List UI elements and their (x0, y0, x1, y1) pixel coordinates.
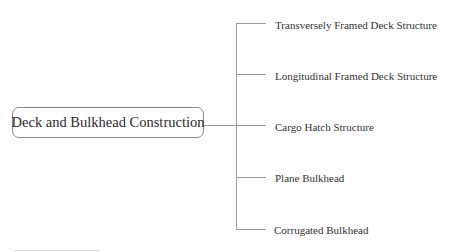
decorative-underline (14, 250, 100, 251)
root-node-label: Deck and Bulkhead Construction (12, 114, 205, 131)
branch-connector (236, 74, 266, 75)
branch-connector (236, 23, 266, 24)
branch-node-longitudinal-framed-deck[interactable]: Longitudinal Framed Deck Structure (275, 70, 437, 82)
branch-node-transversely-framed-deck[interactable]: Transversely Framed Deck Structure (275, 19, 437, 31)
branch-node-plane-bulkhead[interactable]: Plane Bulkhead (275, 172, 344, 184)
branch-connector (236, 229, 266, 230)
branch-node-corrugated-bulkhead[interactable]: Corrugated Bulkhead (274, 224, 368, 236)
trunk-line (236, 23, 237, 230)
branch-connector (236, 177, 266, 178)
root-connector (204, 125, 266, 126)
root-node[interactable]: Deck and Bulkhead Construction (12, 107, 204, 138)
branch-node-cargo-hatch[interactable]: Cargo Hatch Structure (275, 121, 374, 133)
